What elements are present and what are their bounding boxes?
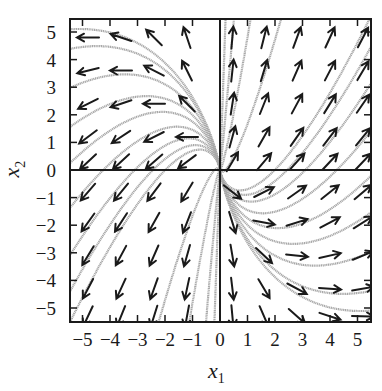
streamline	[70, 145, 220, 291]
vector-arrow-icon	[146, 30, 162, 46]
vector-arrow-icon	[288, 186, 306, 199]
vector-arrow-icon	[293, 27, 302, 48]
y-axis-label: x2	[1, 161, 27, 178]
streamline	[70, 138, 220, 254]
vector-arrow-icon	[182, 61, 192, 81]
vector-arrow-icon	[355, 154, 370, 170]
x-tick-label: 3	[298, 330, 308, 349]
vector-arrow-icon	[229, 278, 237, 300]
x-axis-label-subscript: 1	[218, 371, 225, 386]
x-tick-label: 1	[243, 330, 253, 349]
vector-arrow-icon	[323, 154, 338, 170]
vector-arrow-icon	[261, 27, 269, 48]
origin-axes	[70, 19, 371, 322]
streamline	[189, 170, 220, 322]
vector-arrow-icon	[354, 217, 373, 229]
y-tick-label: −1	[36, 188, 56, 207]
vector-arrow-icon	[320, 217, 339, 227]
x-tick-label: 4	[325, 330, 335, 349]
y-tick-label: −2	[36, 216, 56, 235]
vector-arrow-icon	[143, 100, 165, 108]
x-tick-label: 2	[270, 330, 280, 349]
y-tick-label: −3	[36, 243, 56, 262]
vector-arrow-icon	[181, 183, 192, 202]
vector-arrow-icon	[183, 306, 191, 328]
vector-arrow-icon	[286, 252, 308, 260]
vector-arrow-icon	[113, 154, 129, 169]
vector-arrow-icon	[260, 306, 270, 326]
vector-arrow-icon	[325, 61, 335, 81]
y-tick-label: 4	[47, 50, 57, 69]
y-tick-label: 3	[47, 78, 57, 97]
vector-arrow-icon	[290, 154, 305, 170]
vector-arrow-icon	[325, 28, 335, 48]
vector-arrow-icon	[227, 152, 238, 171]
vector-arrow-icon	[257, 153, 271, 170]
vector-arrow-icon	[149, 278, 158, 299]
vector-arrow-icon	[116, 279, 126, 299]
vector-arrow-icon	[292, 94, 303, 113]
vector-arrow-icon	[293, 61, 303, 81]
x-tick-label: 5	[353, 330, 363, 349]
vector-arrow-icon	[83, 279, 93, 298]
vector-arrow-icon	[110, 67, 132, 75]
vector-arrow-icon	[258, 279, 269, 298]
vector-arrow-icon	[147, 183, 160, 201]
vector-arrow-icon	[77, 68, 98, 75]
streamline	[71, 74, 221, 170]
streamline	[220, 170, 371, 311]
vector-arrow-icon	[111, 33, 132, 41]
phase-portrait-figure: −5−4−3−2−1012345 −5−4−3−2−1012345 x1 x2	[0, 0, 382, 391]
vector-arrow-icon	[116, 246, 127, 265]
streamline	[220, 47, 371, 195]
y-tick-label: 0	[47, 161, 57, 180]
vector-arrow-icon	[112, 131, 130, 143]
vector-arrow-icon	[259, 127, 270, 146]
y-axis-label-main: x	[0, 168, 24, 178]
vector-arrow-icon	[111, 100, 132, 108]
x-tick-label: −3	[127, 330, 147, 349]
vector-arrow-icon	[321, 185, 338, 199]
y-tick-label: −4	[36, 271, 56, 290]
vector-arrow-icon	[229, 27, 237, 49]
y-tick-label: 2	[47, 105, 57, 124]
x-axis-label-main: x	[208, 358, 218, 383]
streamline	[220, 170, 371, 294]
vector-arrow-icon	[324, 94, 336, 113]
y-tick-label: −5	[36, 299, 56, 318]
vector-arrow-icon	[229, 305, 237, 327]
vector-arrow-icon	[261, 60, 269, 81]
vector-arrow-icon	[149, 306, 157, 327]
vector-arrow-icon	[260, 94, 269, 115]
vector-arrow-icon	[144, 65, 164, 75]
vector-arrow-icon	[83, 306, 93, 326]
vector-arrow-icon	[256, 248, 272, 263]
vector-arrow-icon	[77, 34, 99, 42]
vector-arrow-icon	[287, 284, 306, 294]
vector-arrow-icon	[79, 130, 97, 143]
x-tick-label: −4	[100, 330, 120, 349]
vector-arrow-icon	[182, 27, 190, 48]
x-tick-label: 0	[215, 330, 225, 349]
vector-arrow-icon	[82, 246, 93, 265]
streamline	[220, 18, 281, 172]
vector-arrow-icon	[144, 132, 164, 142]
y-axis-label-subscript: 2	[13, 161, 28, 168]
streamline	[70, 150, 220, 322]
y-tick-label: 1	[47, 133, 57, 152]
y-tick-label: 5	[47, 23, 57, 42]
vector-arrow-icon	[182, 278, 190, 300]
vector-arrow-icon	[116, 306, 125, 326]
x-tick-label: −2	[155, 330, 175, 349]
vector-arrow-icon	[319, 251, 340, 259]
x-tick-label: −1	[182, 330, 202, 349]
vector-arrow-icon	[78, 99, 98, 109]
vector-arrow-icon	[149, 246, 159, 266]
streamline	[220, 170, 371, 266]
vector-arrow-icon	[357, 61, 368, 80]
vector-arrow-icon	[182, 245, 190, 266]
vector-arrow-icon	[229, 245, 237, 267]
x-tick-label: −5	[72, 330, 92, 349]
vector-arrow-icon	[80, 154, 96, 169]
x-axis-label: x1	[208, 360, 225, 386]
